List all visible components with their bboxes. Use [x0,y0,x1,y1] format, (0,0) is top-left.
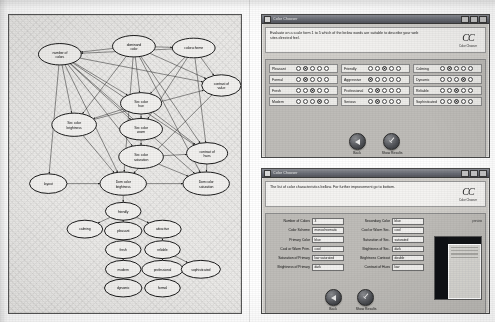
rating-radio-3[interactable] [382,99,387,104]
field-value[interactable]: monochromatic [312,227,344,234]
field-value[interactable]: dark [312,264,344,271]
rating-radio-3[interactable] [454,99,459,104]
rating-radio-1[interactable] [440,66,445,71]
show-results-button[interactable]: Show Results [382,133,403,155]
back-button[interactable]: Back [349,133,366,155]
survey-word-row[interactable]: Sophisticated [413,97,482,106]
rating-radio-4[interactable] [389,88,394,93]
rating-radio-3[interactable] [310,66,315,71]
check-icon[interactable] [383,133,400,150]
rating-radio-5[interactable] [468,88,473,93]
minimize-icon[interactable] [461,16,469,23]
rating-radio-1[interactable] [368,88,373,93]
rating-radio-5[interactable] [396,88,401,93]
rating-radio-2[interactable] [303,77,308,82]
survey-word-row[interactable]: Reliable [413,86,482,95]
rating-radio-3[interactable] [454,66,459,71]
rating-radio-2[interactable] [375,88,380,93]
rating-radio-5[interactable] [396,77,401,82]
rating-radio-3[interactable] [310,77,315,82]
rating-radio-2[interactable] [447,99,452,104]
maximize-icon[interactable] [470,170,478,177]
survey-word-row[interactable]: Dynamic [413,75,482,84]
show-results-button[interactable]: Show Results [356,289,377,311]
rating-radio-5[interactable] [468,77,473,82]
field-value[interactable]: 3 [312,218,344,225]
rating-radio-group[interactable] [296,77,329,82]
rating-radio-2[interactable] [447,77,452,82]
rating-radio-3[interactable] [310,99,315,104]
rating-radio-3[interactable] [382,88,387,93]
window-controls[interactable] [461,16,487,23]
rating-radio-3[interactable] [454,77,459,82]
field-value[interactable]: blue [392,218,424,225]
rating-radio-1[interactable] [296,77,301,82]
maximize-icon[interactable] [470,16,478,23]
field-value[interactable]: low [392,264,424,271]
rating-radio-4[interactable] [317,66,322,71]
rating-radio-group[interactable] [440,77,473,82]
rating-radio-group[interactable] [440,88,473,93]
rating-radio-4[interactable] [317,77,322,82]
field-value[interactable]: dark [392,246,424,253]
rating-radio-4[interactable] [389,77,394,82]
window-controls[interactable] [461,170,487,177]
rating-radio-5[interactable] [396,66,401,71]
rating-radio-5[interactable] [468,99,473,104]
rating-radio-1[interactable] [440,77,445,82]
rating-radio-4[interactable] [461,99,466,104]
minimize-icon[interactable] [461,170,469,177]
rating-radio-1[interactable] [296,88,301,93]
rating-radio-5[interactable] [324,66,329,71]
survey-button-row[interactable]: BackShow Results [266,133,485,155]
rating-radio-5[interactable] [324,77,329,82]
rating-radio-3[interactable] [454,88,459,93]
triangle-left-icon[interactable] [325,289,342,306]
rating-radio-4[interactable] [317,88,322,93]
rating-radio-5[interactable] [324,88,329,93]
rating-radio-4[interactable] [461,66,466,71]
rating-radio-3[interactable] [310,88,315,93]
rating-radio-1[interactable] [440,99,445,104]
rating-radio-group[interactable] [440,66,473,71]
results-button-row[interactable]: BackShow Results [266,289,485,311]
survey-word-row[interactable]: Serious [341,97,410,106]
rating-radio-group[interactable] [368,77,401,82]
rating-radio-1[interactable] [368,77,373,82]
rating-radio-1[interactable] [440,88,445,93]
survey-word-row[interactable]: Calming [413,64,482,73]
results-window[interactable]: Color Chooser The list of color characte… [261,168,490,314]
rating-radio-2[interactable] [303,88,308,93]
rating-radio-2[interactable] [447,66,452,71]
rating-radio-2[interactable] [447,88,452,93]
rating-radio-2[interactable] [303,99,308,104]
rating-radio-group[interactable] [368,99,401,104]
rating-radio-2[interactable] [375,66,380,71]
survey-window[interactable]: Color Chooser Evaluate on a scale form 1… [261,14,490,158]
field-value[interactable]: low saturated [312,255,344,262]
rating-radio-4[interactable] [461,77,466,82]
close-icon[interactable] [479,16,487,23]
rating-radio-4[interactable] [389,99,394,104]
rating-radio-5[interactable] [324,99,329,104]
rating-radio-group[interactable] [440,99,473,104]
rating-radio-5[interactable] [468,66,473,71]
rating-radio-group[interactable] [368,66,401,71]
survey-word-row[interactable]: Professional [341,86,410,95]
survey-word-row[interactable]: Friendly [341,64,410,73]
field-value[interactable]: double [392,255,424,262]
rating-radio-2[interactable] [375,99,380,104]
field-value[interactable]: cool [392,227,424,234]
rating-radio-5[interactable] [396,99,401,104]
rating-radio-3[interactable] [382,66,387,71]
field-value[interactable]: blue [312,236,344,243]
check-icon[interactable] [357,289,374,306]
rating-radio-4[interactable] [389,66,394,71]
rating-radio-group[interactable] [296,88,329,93]
triangle-left-icon[interactable] [349,133,366,150]
back-button[interactable]: Back [325,289,342,311]
field-value[interactable]: saturated [392,236,424,243]
field-value[interactable]: cool [312,246,344,253]
rating-radio-4[interactable] [317,99,322,104]
rating-radio-group[interactable] [296,66,329,71]
